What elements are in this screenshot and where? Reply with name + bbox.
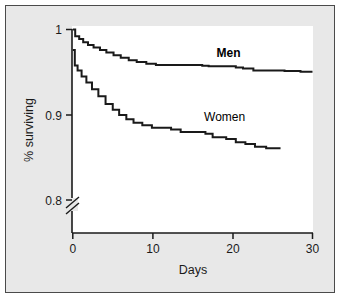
y-tick-label-0-8: 0.8	[45, 194, 62, 208]
x-tick-label-20: 20	[226, 242, 240, 256]
x-tick-label-10: 10	[146, 242, 160, 256]
x-ticks	[73, 233, 313, 239]
y-tick-label-1: 1	[55, 23, 62, 37]
y-axis-title: % surviving	[22, 98, 36, 162]
series-label-men: Men	[217, 46, 241, 60]
x-tick-label-30: 30	[306, 242, 320, 256]
y-tick-label-0-9: 0.9	[45, 109, 62, 123]
axes	[72, 29, 313, 233]
series-label-women: Women	[204, 110, 245, 124]
figure-frame: 1 0.9 0.8 0 10 20 30 0 Days % surviving …	[5, 5, 335, 293]
series-line-men	[73, 30, 313, 72]
x-axis-title: Days	[179, 263, 207, 277]
y-ticks	[66, 30, 72, 201]
x-tick-label-0: 0	[69, 242, 76, 256]
survival-chart: 1 0.9 0.8 0 10 20 30 0 Days % surviving …	[6, 6, 336, 294]
